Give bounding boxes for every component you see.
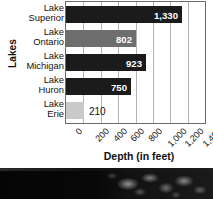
- category-label-ontario: Lake Ontario: [4, 27, 64, 48]
- category-label-line2: Huron: [4, 85, 64, 95]
- x-tick-label: 0: [73, 126, 84, 137]
- x-tick-label: 800: [146, 126, 164, 144]
- decorative-photo-strip: [0, 168, 213, 199]
- category-label-line2: Ontario: [4, 37, 64, 47]
- bar-lake-ontario: 802: [66, 30, 136, 47]
- category-label-line2: Erie: [4, 109, 64, 119]
- x-axis-tick-labels: 02004006008001,0001,2001,4001,600: [65, 124, 206, 150]
- y-axis-tick-labels: Lake Superior Lake Ontario Lake Michigan…: [4, 1, 64, 125]
- x-tick-label: 1,200: [183, 126, 206, 149]
- bar-lake-michigan: 923: [66, 54, 146, 71]
- x-tick-label: 600: [128, 126, 146, 144]
- category-label-huron: Lake Huron: [4, 75, 64, 96]
- category-label-superior: Lake Superior: [4, 3, 64, 24]
- bar-value-label: 802: [116, 33, 132, 44]
- gridline: [205, 2, 206, 123]
- x-tick-label: 200: [93, 126, 111, 144]
- gridline: [188, 2, 189, 123]
- category-label-line2: Michigan: [4, 61, 64, 71]
- category-label-erie: Lake Erie: [4, 99, 64, 120]
- plot-area: 1,330802923750210: [65, 1, 206, 124]
- bar-lake-erie: 210: [66, 102, 84, 119]
- bar-value-label: 750: [111, 81, 127, 92]
- bar-chart-figure: Lakes Lake Superior Lake Ontario Lake Mi…: [0, 0, 213, 168]
- bar-lake-huron: 750: [66, 78, 131, 95]
- x-tick-label: 400: [111, 126, 129, 144]
- photo-top-edge: [0, 168, 213, 171]
- bar-lake-superior: 1,330: [66, 6, 182, 23]
- bar-value-label: 210: [89, 105, 106, 116]
- category-label-line2: Superior: [4, 13, 64, 23]
- bar-value-label: 923: [126, 57, 142, 68]
- x-axis-title: Depth (in feet): [65, 150, 213, 162]
- bar-value-label: 1,330: [154, 9, 178, 20]
- category-label-michigan: Lake Michigan: [4, 51, 64, 72]
